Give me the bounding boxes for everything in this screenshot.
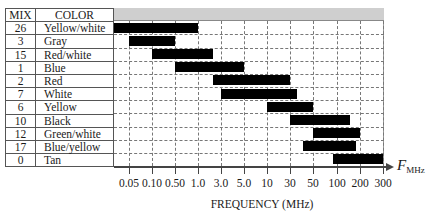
range-bar-mix-26 (114, 23, 198, 33)
x-tick-mark (290, 166, 291, 174)
color-cell: Green/white (36, 127, 114, 140)
range-bar-mix-0 (333, 154, 383, 164)
vertical-gridline (198, 21, 199, 166)
header-mix: MIX (6, 9, 36, 22)
x-tick-mark (337, 166, 338, 174)
vertical-gridline (175, 21, 176, 166)
table-row: 3Gray (6, 35, 114, 48)
vertical-gridline (360, 21, 361, 166)
x-tick-mark (175, 166, 176, 174)
axis-arrow-icon (386, 163, 394, 171)
color-cell: White (36, 88, 114, 101)
x-tick-mark (360, 166, 361, 174)
table-row: 7White (6, 88, 114, 101)
table-row: 26Yellow/white (6, 22, 114, 35)
mix-cell: 10 (6, 114, 36, 127)
color-cell: Red (36, 74, 114, 87)
mix-cell: 0 (6, 154, 36, 167)
x-axis-line (114, 166, 386, 168)
x-tick-mark (244, 166, 245, 174)
x-tick-label: 200 (351, 177, 368, 189)
table-row: 17Blue/yellow (6, 140, 114, 153)
table-row: 0Tan (6, 154, 114, 167)
x-tick-label: 10 (261, 177, 273, 189)
x-tick-mark (152, 166, 153, 174)
chart-header-band (114, 8, 384, 21)
horizontal-gridline (114, 61, 384, 62)
color-cell: Yellow (36, 101, 114, 114)
table-row: 10Black (6, 114, 114, 127)
x-tick-label: 0.10 (142, 177, 162, 189)
mix-cell: 3 (6, 35, 36, 48)
axis-arrow-label: FMHz (397, 157, 425, 175)
range-bar-mix-1 (175, 62, 244, 72)
mix-color-table: MIX COLOR 26Yellow/white 3Gray 15Red/whi… (5, 8, 114, 167)
x-axis-title: FREQUENCY (MHz) (211, 198, 314, 210)
frequency-range-chart (114, 8, 384, 166)
table-row: 15Red/white (6, 48, 114, 61)
table-row: 12Green/white (6, 127, 114, 140)
range-bar-mix-12 (313, 128, 360, 138)
mix-cell: 26 (6, 22, 36, 35)
x-tick-mark (383, 166, 384, 174)
color-cell: Gray (36, 35, 114, 48)
vertical-gridline (383, 21, 384, 166)
color-cell: Blue/yellow (36, 140, 114, 153)
mix-cell: 6 (6, 101, 36, 114)
color-cell: Red/white (36, 48, 114, 61)
mix-cell: 17 (6, 140, 36, 153)
table-header-row: MIX COLOR (6, 9, 114, 22)
mix-cell: 2 (6, 74, 36, 87)
mix-cell: 15 (6, 48, 36, 61)
color-cell: Tan (36, 154, 114, 167)
table-row: 2Red (6, 74, 114, 87)
x-tick-label: 1.0 (191, 177, 205, 189)
mix-cell: 7 (6, 88, 36, 101)
range-bar-mix-17 (303, 141, 357, 151)
x-tick-label: 300 (374, 177, 391, 189)
range-bar-mix-10 (290, 115, 350, 125)
x-tick-mark (267, 166, 268, 174)
x-tick-label: 0.50 (165, 177, 185, 189)
x-tick-label: 3.0 (214, 177, 228, 189)
color-cell: Black (36, 114, 114, 127)
x-tick-label: 100 (328, 177, 345, 189)
color-cell: Blue (36, 61, 114, 74)
mix-cell: 1 (6, 61, 36, 74)
color-cell: Yellow/white (36, 22, 114, 35)
range-bar-mix-6 (267, 102, 313, 112)
x-tick-mark (313, 166, 314, 174)
x-tick-mark (129, 166, 130, 174)
x-tick-mark (221, 166, 222, 174)
x-tick-mark (198, 166, 199, 174)
x-tick-label: 30 (284, 177, 296, 189)
range-bar-mix-3 (129, 36, 175, 46)
x-tick-label: 0.05 (119, 177, 139, 189)
x-tick-label: 50 (307, 177, 319, 189)
range-bar-mix-7 (221, 89, 297, 99)
horizontal-gridline (114, 100, 384, 101)
table-row: 6Yellow (6, 101, 114, 114)
table-row: 1Blue (6, 61, 114, 74)
range-bar-mix-2 (213, 75, 290, 85)
range-bar-mix-15 (152, 49, 213, 59)
header-color: COLOR (36, 9, 114, 22)
mix-cell: 12 (6, 127, 36, 140)
x-tick-label: 5.0 (237, 177, 251, 189)
